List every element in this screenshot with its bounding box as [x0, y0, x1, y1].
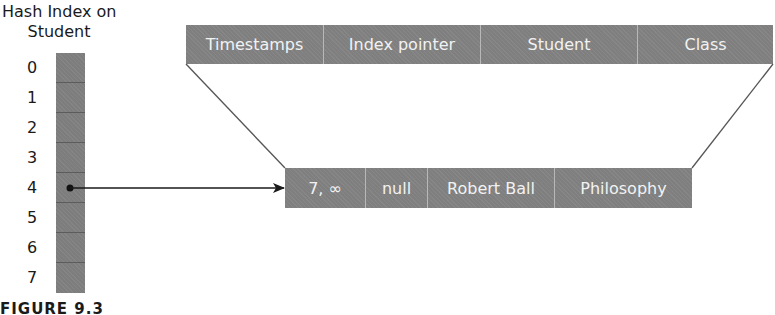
expansion-line-left	[186, 64, 285, 168]
figure-caption: FIGURE 9.3	[0, 300, 104, 315]
connector-overlay	[0, 0, 775, 315]
expansion-line-right	[692, 64, 773, 168]
